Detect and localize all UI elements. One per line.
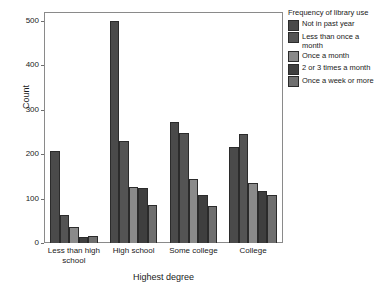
- legend-item: Less than once a month: [288, 32, 377, 50]
- bar: [69, 227, 79, 243]
- legend-swatch: [288, 20, 299, 31]
- legend-label: Once a month: [302, 51, 349, 60]
- x-tick-label: College: [218, 246, 288, 256]
- y-axis-tick: 200: [0, 154, 44, 155]
- y-tick-label: 500: [26, 15, 39, 26]
- bar-chart-figure: Count 0100200300400500 Less than high sc…: [0, 0, 377, 290]
- bar: [119, 141, 129, 243]
- legend-label: Less than once a month: [302, 32, 377, 50]
- bar: [110, 21, 120, 243]
- legend-swatch: [288, 64, 299, 75]
- x-axis-label: Highest degree: [44, 272, 283, 282]
- y-axis-tick: 500: [0, 21, 44, 22]
- bar: [138, 188, 148, 243]
- bar: [50, 151, 60, 243]
- bar: [60, 215, 70, 243]
- y-axis-tick: 400: [0, 65, 44, 66]
- y-axis-tick: 0: [0, 243, 44, 244]
- bar: [239, 134, 249, 243]
- y-tick-label: 200: [26, 148, 39, 159]
- bar: [179, 133, 189, 243]
- legend-label: Not in past year: [302, 19, 355, 28]
- y-axis-tick: 100: [0, 199, 44, 200]
- bar: [229, 147, 239, 243]
- legend-swatch: [288, 51, 299, 62]
- bar: [148, 205, 158, 243]
- bar: [258, 191, 268, 243]
- bar: [79, 237, 89, 243]
- bar: [189, 179, 199, 243]
- bars-layer: [44, 12, 283, 243]
- legend-item: Once a month: [288, 51, 377, 63]
- legend-label: 2 or 3 times a month: [302, 63, 370, 72]
- legend-label: Once a week or more: [302, 76, 374, 85]
- y-tick-label: 100: [26, 193, 39, 204]
- y-tick-mark: [41, 243, 44, 244]
- bar: [170, 122, 180, 243]
- legend-item: Once a week or more: [288, 76, 377, 88]
- bar: [129, 187, 139, 243]
- bar: [208, 206, 218, 243]
- bar: [198, 195, 208, 243]
- legend-items: Not in past yearLess than once a monthOn…: [288, 19, 377, 87]
- legend-item: Not in past year: [288, 19, 377, 31]
- bar: [267, 195, 277, 243]
- legend-item: 2 or 3 times a month: [288, 63, 377, 75]
- y-tick-label: 400: [26, 59, 39, 70]
- y-axis-tick: 300: [0, 110, 44, 111]
- bar: [248, 183, 258, 243]
- legend-swatch: [288, 76, 299, 87]
- legend: Frequency of library use Not in past yea…: [288, 8, 377, 88]
- bar: [88, 236, 98, 243]
- y-tick-label: 300: [26, 104, 39, 115]
- legend-swatch: [288, 32, 299, 43]
- legend-title: Frequency of library use: [288, 8, 377, 17]
